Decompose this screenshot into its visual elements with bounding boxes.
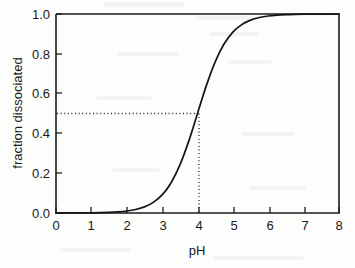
x-tick-label: 1 [87, 218, 94, 233]
x-tick-label: 2 [123, 218, 130, 233]
y-tick-label: 0.0 [32, 206, 50, 221]
x-axis-tick-labels: 0 1 2 3 4 5 6 7 8 [52, 218, 342, 233]
y-tick-label: 0.4 [32, 126, 50, 141]
x-tick-label: 7 [301, 218, 308, 233]
ph-dissociation-chart: 0 1 2 3 4 5 6 7 8 0.0 0.2 0.4 0.6 0.8 1.… [0, 0, 355, 268]
y-tick-label: 0.6 [32, 86, 50, 101]
x-axis-title: pH [189, 243, 206, 258]
y-tick-label: 0.2 [32, 166, 50, 181]
x-tick-label: 6 [266, 218, 273, 233]
y-axis-title: fraction dissociated [10, 57, 25, 168]
x-tick-label: 0 [52, 218, 59, 233]
figure-page: 0 1 2 3 4 5 6 7 8 0.0 0.2 0.4 0.6 0.8 1.… [0, 0, 355, 268]
y-axis-tick-labels: 0.0 0.2 0.4 0.6 0.8 1.0 [32, 7, 50, 221]
curve-path [56, 14, 339, 213]
y-tick-label: 1.0 [32, 7, 50, 22]
x-tick-label: 8 [335, 218, 342, 233]
x-tick-label: 3 [159, 218, 166, 233]
half-dissociation-guides [57, 114, 199, 213]
x-tick-label: 5 [230, 218, 237, 233]
y-tick-label: 0.8 [32, 47, 50, 62]
x-tick-label: 4 [195, 218, 202, 233]
dissociation-curve [56, 14, 339, 213]
